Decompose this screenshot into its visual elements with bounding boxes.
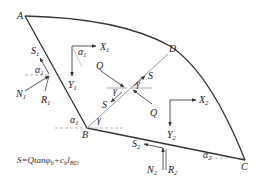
- gamma-left-label: γ: [113, 85, 118, 96]
- point-b-label: B: [82, 129, 88, 140]
- n1-label: N1: [15, 88, 26, 100]
- alpha1-b-label: α1: [70, 114, 79, 126]
- block1-base-forces: S1 N1 R1 α1: [15, 45, 50, 106]
- y1-label: Y1: [68, 79, 77, 91]
- q-left-label: Q: [96, 60, 104, 71]
- s1-label: S1: [31, 45, 39, 57]
- block2-base-forces: S2 N2 R2: [132, 138, 178, 176]
- r1-label: R1: [40, 94, 50, 106]
- s-lower-label: S: [102, 99, 107, 110]
- q-right-label: Q: [150, 107, 158, 118]
- block2-axes: X2 Y2: [167, 94, 209, 141]
- point-a-label: A: [16, 10, 24, 21]
- s-upper-label: S: [148, 70, 153, 81]
- r2-label: R2: [167, 164, 178, 176]
- n2-label: N2: [146, 164, 158, 176]
- interface-forces: Q Q S S γ γ: [96, 60, 158, 118]
- y2-label: Y2: [167, 129, 177, 141]
- alpha1-left-label: α1: [35, 64, 44, 76]
- shear-strength-formula: S=Qtanφb+cblBD: [17, 155, 79, 166]
- x2-label: X2: [198, 94, 209, 106]
- x1-label: X1: [99, 41, 109, 53]
- s2-label: S2: [132, 138, 141, 150]
- point-c-label: C: [241, 161, 248, 172]
- q-right-arrow: [133, 90, 152, 104]
- alpha1-axes-label: α1: [78, 46, 87, 58]
- point-d-label: D: [168, 43, 177, 54]
- slope-force-diagram: A B C D S1 N1 R1 α1 X1 Y1 α1 α1 γ Q Q S …: [0, 0, 261, 185]
- alpha2-label: α2: [203, 149, 212, 161]
- s2-arrow: [144, 144, 163, 148]
